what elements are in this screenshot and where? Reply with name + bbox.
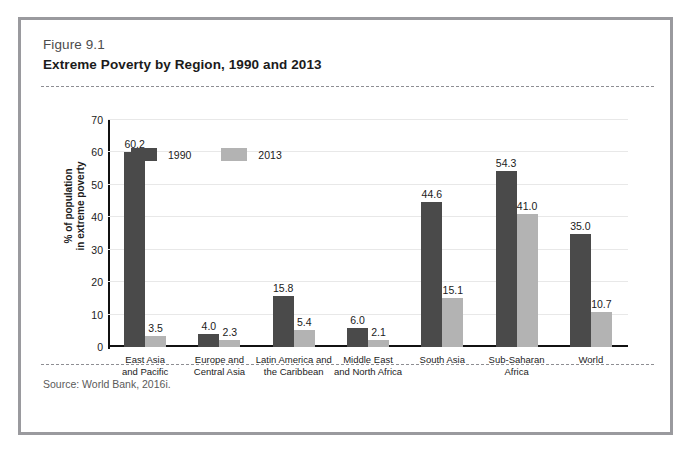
- bar-value-label: 15.1: [443, 284, 463, 296]
- category-label-line: and Pacific: [122, 366, 168, 378]
- x-axis-category-label: East Asiaand Pacific: [122, 354, 168, 377]
- x-axis-category-label: Middle Eastand North Africa: [334, 354, 402, 377]
- bar-1990-3: [347, 328, 368, 347]
- category-label-line: Africa: [489, 366, 545, 378]
- source-note: Source: World Bank, 2016i.: [43, 378, 171, 390]
- bar-1990-5: [496, 171, 517, 347]
- category-label-line: and North Africa: [334, 366, 402, 378]
- gridline: [108, 314, 628, 315]
- chart-legend: 19902013: [131, 148, 312, 161]
- figure-frame: Figure 9.1 Extreme Poverty by Region, 19…: [18, 17, 673, 435]
- y-tick-label: 30: [77, 244, 103, 256]
- figure-title: Extreme Poverty by Region, 1990 and 2013: [43, 57, 322, 72]
- bar-1990-4: [421, 202, 442, 347]
- gridline: [108, 249, 628, 250]
- bar-value-label: 2.3: [223, 326, 238, 338]
- gridline: [108, 184, 628, 185]
- legend-entry-1990[interactable]: 1990: [131, 148, 221, 161]
- x-axis-category-label: Europe andCentral Asia: [194, 354, 245, 377]
- bar-2013-3: [368, 340, 389, 347]
- y-axis-ticks: 010203040506070: [73, 120, 103, 347]
- y-tick-label: 50: [77, 179, 103, 191]
- bar-1990-6: [570, 234, 591, 348]
- bar-value-label: 54.3: [496, 157, 516, 169]
- chart-canvas: % of population in extreme poverty 01020…: [21, 98, 676, 358]
- gridline: [108, 119, 628, 120]
- y-tick-label: 10: [77, 309, 103, 321]
- x-axis-category-label: Sub-SaharanAfrica: [489, 354, 545, 377]
- bar-value-label: 6.0: [350, 314, 365, 326]
- bar-value-label: 44.6: [422, 188, 442, 200]
- legend-label: 1990: [168, 149, 191, 161]
- y-tick-label: 70: [77, 114, 103, 126]
- divider-top: [41, 86, 654, 87]
- bar-2013-5: [517, 214, 538, 347]
- x-axis-category-label: Latin America andthe Caribbean: [256, 354, 332, 377]
- bar-value-label: 3.5: [148, 322, 163, 334]
- bar-value-label: 10.7: [591, 298, 611, 310]
- bar-value-label: 35.0: [570, 220, 590, 232]
- bar-value-label: 4.0: [202, 320, 217, 332]
- bar-1990-0: [124, 152, 145, 347]
- gridline: [108, 216, 628, 217]
- figure-number: Figure 9.1: [43, 37, 105, 52]
- bar-2013-6: [591, 312, 612, 347]
- legend-swatch-icon: [221, 148, 247, 161]
- bar-1990-2: [273, 296, 294, 347]
- bar-2013-4: [442, 298, 463, 347]
- bar-1990-1: [198, 334, 219, 347]
- category-label-line: the Caribbean: [256, 366, 332, 378]
- figure-page: Figure 9.1 Extreme Poverty by Region, 19…: [21, 20, 670, 432]
- divider-bottom: [41, 364, 654, 365]
- bar-value-label: 5.4: [297, 316, 312, 328]
- bar-2013-1: [219, 340, 240, 347]
- gridline: [108, 281, 628, 282]
- y-tick-label: 40: [77, 211, 103, 223]
- bar-2013-0: [145, 336, 166, 347]
- category-label-line: Central Asia: [194, 366, 245, 378]
- legend-entry-2013[interactable]: 2013: [221, 148, 311, 161]
- y-tick-label: 0: [77, 341, 103, 353]
- bar-value-label: 2.1: [371, 326, 386, 338]
- legend-swatch-icon: [131, 148, 157, 161]
- bar-value-label: 15.8: [273, 282, 293, 294]
- y-tick-label: 60: [77, 146, 103, 158]
- y-tick-label: 20: [77, 276, 103, 288]
- bar-2013-2: [294, 330, 315, 348]
- bar-value-label: 41.0: [517, 200, 537, 212]
- legend-label: 2013: [258, 149, 281, 161]
